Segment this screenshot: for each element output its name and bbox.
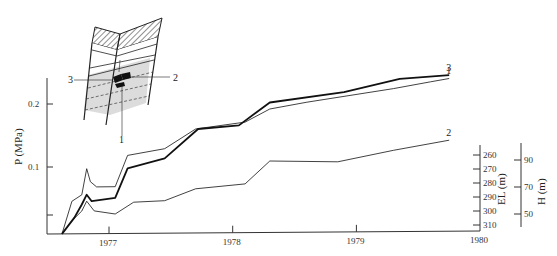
- y-tick-label: 0.2: [28, 99, 39, 109]
- x-tick-label: 1978: [223, 237, 242, 247]
- inset-label-1: 1: [119, 134, 124, 145]
- inset-label-2: 2: [173, 72, 178, 83]
- x-tick-label: 1979: [346, 236, 365, 246]
- inset-label-3: 3: [68, 74, 73, 85]
- h-tick-label: 90: [524, 155, 534, 165]
- el-axis-title: EL (m): [495, 173, 508, 205]
- y-axis-ticks: 0.20.1: [28, 99, 53, 215]
- y-axis-title: P (MPa): [12, 128, 25, 165]
- h-axis: 907050 H (m): [514, 143, 548, 227]
- h-tick-label: 70: [524, 182, 534, 192]
- el-tick-label: 310: [483, 220, 497, 230]
- h-axis-title: H (m): [535, 178, 548, 205]
- pressure-chart: 3 2 1 0.20.1 1977197819791980 P (MPa) 26…: [0, 0, 557, 256]
- el-tick-label: 270: [483, 164, 497, 174]
- x-tick-label: 1980: [470, 235, 489, 245]
- el-tick-label: 300: [483, 206, 497, 216]
- series-label-2: 2: [446, 127, 451, 138]
- el-tick-label: 260: [483, 150, 497, 160]
- x-tick-label: 1977: [99, 238, 118, 248]
- x-axis-ticks: 1977197819791980: [99, 225, 489, 248]
- y-tick-label: 0.1: [28, 162, 39, 172]
- main-axes: 0.20.1 1977197819791980 P (MPa): [12, 78, 489, 248]
- h-tick-label: 50: [524, 209, 534, 219]
- el-axis: 260270280290300310 EL (m): [473, 145, 508, 231]
- series-label-3: 3: [446, 62, 451, 73]
- inset-diagram: 3 2 1: [68, 18, 178, 145]
